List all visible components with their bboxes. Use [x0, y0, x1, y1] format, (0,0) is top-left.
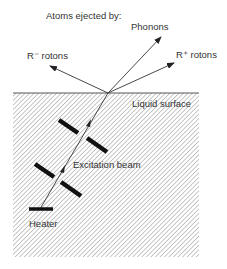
liquid-region — [13, 93, 199, 257]
r-plus-label: R⁺ rotons — [176, 49, 217, 60]
title-label: Atoms ejected by: — [46, 10, 122, 21]
phonons-label: Phonons — [131, 21, 169, 32]
r-plus-arrow — [108, 63, 174, 93]
diagram-canvas: Atoms ejected by: Phonons R⁻ rotons R⁺ r… — [0, 0, 227, 269]
phonons-arrow — [108, 37, 161, 93]
r-minus-label: R⁻ rotons — [27, 50, 68, 61]
beam-label: Excitation beam — [73, 159, 141, 170]
r-minus-arrow — [50, 66, 108, 93]
heater-label: Heater — [29, 218, 58, 229]
surface-label: Liquid surface — [132, 98, 191, 109]
